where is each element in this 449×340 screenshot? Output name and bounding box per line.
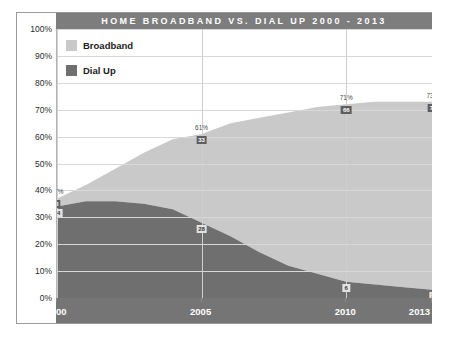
gridline-y (57, 190, 432, 191)
x-axis-tick (345, 298, 346, 302)
gridline-x (202, 29, 203, 298)
y-axis-labels: 0%10%20%30%40%50%60%70%80%90%100% (16, 29, 56, 298)
y-axis-tick-label: 90% (35, 51, 52, 61)
legend-item-dialup: Dial Up (66, 65, 133, 76)
legend-swatch-broadband (66, 40, 77, 51)
x-axis-band: 2000200520102013 (56, 298, 432, 323)
broadband-value-badge: 70 (428, 104, 432, 112)
total-percent-annotation: 61% (195, 124, 208, 131)
gridline-y (57, 217, 432, 218)
x-axis-tick-label: 2005 (190, 305, 211, 316)
dialup-value-badge: 6 (343, 284, 350, 292)
y-axis-tick-label: 70% (35, 105, 52, 115)
y-axis-tick-label: 60% (35, 132, 52, 142)
x-axis-tick-label: 2013 (409, 305, 430, 316)
y-axis-tick-label: 10% (35, 266, 52, 276)
gridline-y (57, 164, 432, 165)
broadband-value-badge: 3 (56, 200, 61, 208)
dialup-value-badge: 28 (196, 225, 207, 233)
y-axis-tick-label: 100% (30, 24, 52, 34)
broadband-value-badge: 33 (196, 136, 207, 144)
gridline-y (57, 244, 432, 245)
total-percent-annotation: 73% (426, 92, 432, 99)
legend-label-broadband: Broadband (83, 40, 133, 51)
chart-legend: Broadband Dial Up (66, 40, 133, 90)
x-axis-tick (56, 298, 57, 302)
x-axis-tick-label: 2010 (335, 305, 356, 316)
y-axis-tick-label: 80% (35, 78, 52, 88)
gridline-x (346, 29, 347, 298)
y-axis-tick-label: 30% (35, 212, 52, 222)
gridline-x (57, 29, 58, 298)
total-percent-annotation: 37% (56, 188, 64, 195)
gridline-y (57, 110, 432, 111)
y-axis-tick-label: 0% (40, 293, 52, 303)
legend-item-broadband: Broadband (66, 40, 133, 51)
y-axis-tick-label: 50% (35, 159, 52, 169)
dialup-value-badge: 34 (56, 209, 62, 217)
broadband-value-badge: 66 (341, 106, 352, 114)
legend-label-dialup: Dial Up (83, 65, 116, 76)
gridline-y (57, 271, 432, 272)
legend-swatch-dialup (66, 65, 77, 76)
chart-screenshot: HOME BROADBAND VS. DIAL UP 2000 - 2013 0… (0, 0, 449, 340)
y-axis-tick-label: 40% (35, 185, 52, 195)
y-axis-tick-label: 20% (35, 239, 52, 249)
gridline-y (57, 137, 432, 138)
chart-title: HOME BROADBAND VS. DIAL UP 2000 - 2013 (56, 13, 432, 29)
x-axis-tick-label: 2000 (45, 305, 66, 316)
x-axis-tick (431, 298, 432, 302)
gridline-y (57, 29, 432, 30)
x-axis-tick (201, 298, 202, 302)
total-percent-annotation: 71% (340, 94, 353, 101)
